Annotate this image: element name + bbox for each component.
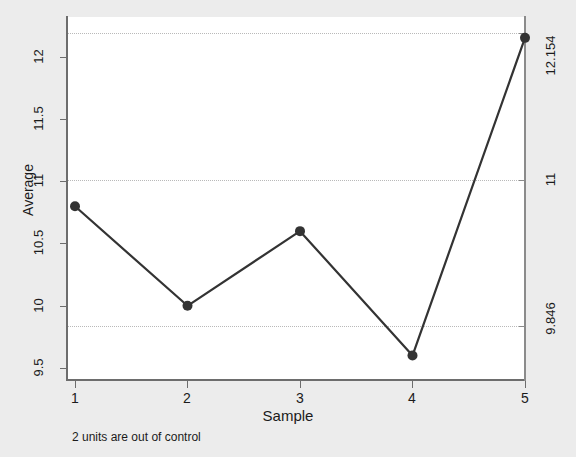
x-tick-label: 4 — [392, 390, 432, 406]
x-tick-label: 3 — [280, 390, 320, 406]
upper-control-limit-label: 12.154 — [543, 33, 558, 79]
secondary-y-tick-mark — [519, 180, 526, 181]
lower-control-limit-line — [67, 326, 525, 328]
secondary-y-tick-mark — [519, 33, 526, 34]
y-tick-label-wrap: 12 — [14, 49, 58, 65]
x-tick-label: 2 — [167, 390, 207, 406]
out-of-control-note: 2 units are out of control — [72, 430, 201, 444]
center-line — [67, 180, 525, 182]
x-tick-mark — [300, 381, 301, 388]
y-tick-label: 12 — [31, 37, 46, 77]
y-tick-label: 9.5 — [31, 348, 46, 388]
secondary-y-tick-label-wrap: 9.846 — [527, 311, 573, 327]
y-tick-mark — [60, 57, 67, 58]
x-tick-label: 5 — [505, 390, 545, 406]
control-chart: 9.5 10 10.5 11 11.5 12 12.154 11 9.846 1… — [0, 0, 576, 457]
y-tick-mark — [60, 368, 67, 369]
x-tick-mark — [75, 381, 76, 388]
x-tick-mark — [187, 381, 188, 388]
x-axis-title: Sample — [0, 407, 576, 424]
y-axis-title: Average — [20, 140, 36, 240]
y-tick-mark — [60, 181, 67, 182]
upper-control-limit-line — [67, 33, 525, 35]
x-tick-mark — [525, 381, 526, 388]
lower-control-limit-label: 9.846 — [543, 296, 558, 342]
x-tick-label: 1 — [55, 390, 95, 406]
y-tick-label: 10 — [31, 286, 46, 326]
secondary-y-tick-label-wrap: 11 — [527, 172, 573, 188]
secondary-y-tick-label-wrap: 12.154 — [527, 48, 573, 64]
y-tick-label: 11.5 — [31, 99, 46, 139]
y-tick-mark — [60, 243, 67, 244]
x-tick-mark — [412, 381, 413, 388]
x-axis-line — [66, 379, 525, 381]
y-tick-label-wrap: 10 — [14, 298, 58, 314]
secondary-y-tick-mark — [519, 326, 526, 327]
y-axis-line — [66, 16, 68, 381]
y-tick-label-wrap: 11.5 — [14, 111, 58, 127]
center-line-label: 11 — [543, 157, 558, 203]
y-tick-label-wrap: 9.5 — [14, 360, 58, 376]
y-tick-mark — [60, 306, 67, 307]
y-tick-mark — [60, 119, 67, 120]
